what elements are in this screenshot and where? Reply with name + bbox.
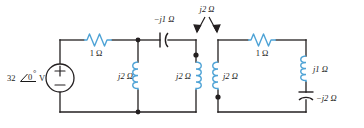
svg-text:0: 0 (28, 72, 32, 82)
junction-dot-bottom (136, 110, 141, 115)
source-degree: ° (33, 68, 36, 78)
source-angle: 0 (28, 72, 32, 82)
label-l1: j2 Ω (117, 71, 133, 81)
capacitor-c1 (160, 33, 168, 48)
label-c1: −j1 Ω (154, 14, 175, 24)
inductor-l2-primary (196, 62, 201, 90)
svg-text:32: 32 (7, 73, 16, 83)
label-l2: j2 Ω (175, 71, 191, 81)
label-l3: j2 Ω (222, 71, 238, 81)
label-voltage-source: 32 0 ° V (7, 68, 46, 83)
inductor-l4 (301, 56, 306, 82)
svg-text:°: ° (33, 68, 36, 78)
resistor-r1 (84, 34, 112, 46)
resistor-r2 (248, 34, 276, 46)
source-unit: V (39, 73, 46, 83)
voltage-source-symbol (46, 64, 74, 92)
polarity-dot-l2 (193, 52, 198, 57)
inductor-l3-secondary (213, 62, 218, 90)
svg-text:V: V (39, 73, 46, 83)
label-mutual-inductance: j2 Ω (199, 4, 215, 14)
label-l4: j1 Ω (312, 64, 328, 74)
junction-dot-top (136, 38, 141, 43)
inductor-l1 (133, 62, 138, 90)
capacitor-c2 (299, 92, 314, 100)
polarity-dot-l3 (215, 94, 220, 99)
mutual-inductance-arrows (194, 17, 220, 32)
circuit-diagram: 1 Ω j2 Ω −j1 Ω j2 Ω j2 Ω j2 Ω 1 Ω j1 Ω −… (0, 0, 364, 128)
label-r1: 1 Ω (90, 48, 103, 58)
source-magnitude: 32 (7, 73, 16, 83)
label-c2: −j2 Ω (316, 93, 337, 103)
label-r2: 1 Ω (256, 48, 269, 58)
